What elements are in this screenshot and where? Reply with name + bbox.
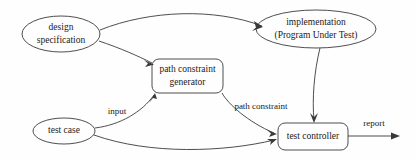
node-design-specification[interactable]: design specification: [22, 16, 100, 52]
node-test-controller[interactable]: test controller: [278, 123, 348, 150]
node-design-specification-line2: specification: [37, 35, 86, 45]
edge-implementation-to-controller-path: [313, 48, 320, 120]
node-test-case[interactable]: test case: [33, 118, 95, 144]
diagram-canvas: input path constraint report desi: [0, 0, 416, 160]
edge-label-input: input: [108, 106, 127, 116]
edge-design-to-implementation-arrowhead: [252, 21, 263, 31]
edge-generator-to-controller-arrowhead: [267, 130, 277, 137]
node-design-specification-line1: design: [49, 22, 74, 32]
node-test-controller-label: test controller: [287, 131, 340, 141]
edge-design-to-implementation-path: [100, 14, 262, 30]
edge-testcase-to-generator: input: [95, 93, 157, 128]
edge-implementation-to-controller: [310, 48, 320, 123]
edge-testcase-to-generator-arrowhead: [149, 93, 157, 103]
edge-label-path-constraint: path constraint: [234, 101, 288, 111]
edge-controller-to-report: report: [348, 118, 400, 139]
edge-testcase-to-controller-arrowhead: [267, 139, 277, 145]
node-path-constraint-generator-line2: generator: [170, 77, 207, 87]
edge-controller-to-report-arrowhead: [391, 133, 400, 140]
edge-design-to-generator: [99, 41, 154, 67]
edge-design-to-implementation: [100, 14, 263, 31]
edge-design-to-generator-path: [99, 41, 152, 63]
node-path-constraint-generator-line1: path constraint: [159, 64, 216, 74]
edge-testcase-to-controller-path: [94, 135, 274, 150]
node-implementation-ellipse[interactable]: [256, 10, 376, 48]
node-implementation-line1: implementation: [286, 17, 346, 27]
node-implementation[interactable]: implementation (Program Under Test): [256, 10, 376, 48]
edge-generator-to-controller-path: [222, 93, 274, 133]
edge-testcase-to-controller: [94, 135, 277, 150]
node-test-case-label: test case: [48, 125, 80, 135]
node-path-constraint-generator[interactable]: path constraint generator: [152, 59, 223, 93]
diagram-svg: input path constraint report desi: [0, 0, 416, 160]
edge-label-report: report: [363, 118, 385, 128]
node-implementation-line2: (Program Under Test): [274, 30, 357, 41]
